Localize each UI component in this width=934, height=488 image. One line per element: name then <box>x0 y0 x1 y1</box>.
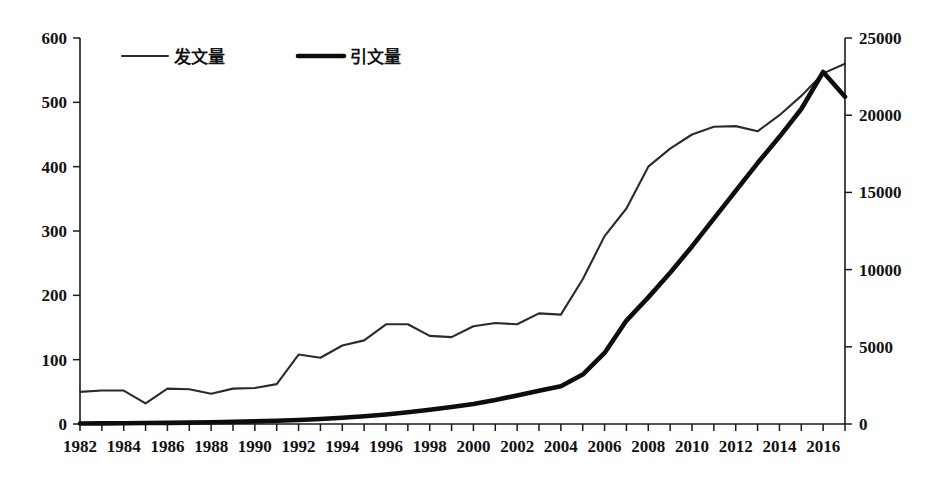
line-chart: 0100200300400500600 05000100001500020000… <box>0 0 934 488</box>
right-axis-tick-label: 5000 <box>859 338 893 357</box>
x-axis-tick-label: 1986 <box>150 437 184 456</box>
series-line-publications <box>80 64 845 404</box>
right-axis-tick-label: 10000 <box>859 261 902 280</box>
x-axis-tick-label: 2010 <box>675 437 709 456</box>
x-axis-tick-label: 2008 <box>631 437 665 456</box>
x-axis-tick-label: 1990 <box>238 437 272 456</box>
left-axis-tick-label: 600 <box>42 29 68 48</box>
right-axis-tick-label: 15000 <box>859 183 902 202</box>
x-axis-tick-label: 2004 <box>544 437 579 456</box>
left-axis-tick-label: 0 <box>59 415 68 434</box>
x-axis-tick-label: 1992 <box>282 437 316 456</box>
left-axis-tick-label: 100 <box>42 351 68 370</box>
x-axis-tick-label: 1998 <box>413 437 447 456</box>
x-axis-tick-label: 2006 <box>588 437 622 456</box>
series-lines <box>80 64 845 424</box>
x-axis-tick-label: 2002 <box>500 437 534 456</box>
x-axis-tick-label: 1988 <box>194 437 228 456</box>
left-axis-tick-label: 500 <box>42 93 68 112</box>
x-axis-tick-label: 2000 <box>456 437 490 456</box>
x-axis-tick-label: 1982 <box>63 437 97 456</box>
right-axis: 0500010000150002000025000 <box>845 29 902 434</box>
x-axis-tick-label: 1996 <box>369 437 403 456</box>
x-axis-tick-label: 2016 <box>806 437 840 456</box>
chart-container: 0100200300400500600 05000100001500020000… <box>0 0 934 488</box>
right-axis-tick-label: 0 <box>859 415 868 434</box>
x-axis-tick-label: 2012 <box>719 437 753 456</box>
series-line-citations <box>80 72 845 424</box>
legend-label-publications: 发文量 <box>173 47 225 67</box>
legend-label-citations: 引文量 <box>350 47 401 67</box>
x-axis-tick-label: 1984 <box>107 437 142 456</box>
chart-legend: 发文量引文量 <box>122 47 401 67</box>
right-axis-tick-label: 25000 <box>859 29 902 48</box>
x-axis: 1982198419861988199019921994199619982000… <box>63 424 845 456</box>
left-axis: 0100200300400500600 <box>42 29 81 434</box>
x-axis-tick-label: 2014 <box>762 437 797 456</box>
right-axis-tick-label: 20000 <box>859 106 902 125</box>
x-axis-tick-label: 1994 <box>325 437 360 456</box>
left-axis-tick-label: 200 <box>42 286 68 305</box>
left-axis-tick-label: 400 <box>42 158 68 177</box>
left-axis-tick-label: 300 <box>42 222 68 241</box>
